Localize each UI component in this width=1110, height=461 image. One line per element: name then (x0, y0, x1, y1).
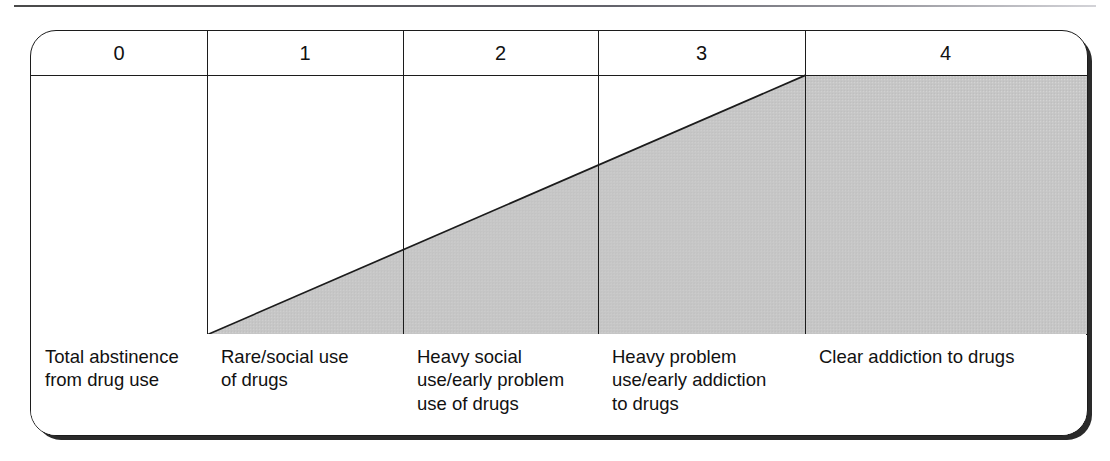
ramp-plateau-texture (806, 75, 1087, 335)
page-top-rule (14, 5, 1096, 7)
scale-label-text-1: Rare/social use of drugs (221, 345, 403, 392)
header-bottom-rule (31, 75, 1087, 76)
scale-label-row: Total abstinence from drug use Rare/soci… (31, 334, 1087, 435)
figure-plane: 0 1 2 3 4 Total abstinence from drug use… (31, 31, 1087, 435)
scale-header-0: 0 (31, 31, 207, 75)
continuum-figure-frame: 0 1 2 3 4 Total abstinence from drug use… (30, 30, 1088, 436)
scale-header-1: 1 (207, 31, 403, 75)
ramp-plateau-block (806, 75, 1087, 335)
scale-label-text-3: Heavy problem use/early addiction to dru… (612, 345, 805, 415)
scale-label-cell-2: Heavy social use/early problem use of dr… (403, 334, 598, 435)
scale-header-3: 3 (598, 31, 805, 75)
scale-label-text-2: Heavy social use/early problem use of dr… (417, 345, 598, 415)
scale-label-cell-4: Clear addiction to drugs (805, 334, 1086, 435)
ramp-triangle (207, 75, 806, 335)
scale-header-row: 0 1 2 3 4 (31, 31, 1087, 75)
scale-label-cell-3: Heavy problem use/early addiction to dru… (598, 334, 805, 435)
ramp-triangle-texture (207, 75, 806, 335)
scale-header-4: 4 (805, 31, 1086, 75)
scale-label-cell-1: Rare/social use of drugs (207, 334, 403, 435)
scale-label-cell-0: Total abstinence from drug use (31, 334, 207, 435)
ramp-slope-line (207, 75, 806, 335)
scale-header-2: 2 (403, 31, 598, 75)
scale-label-text-4: Clear addiction to drugs (819, 345, 1086, 368)
scale-label-text-0: Total abstinence from drug use (45, 345, 207, 392)
